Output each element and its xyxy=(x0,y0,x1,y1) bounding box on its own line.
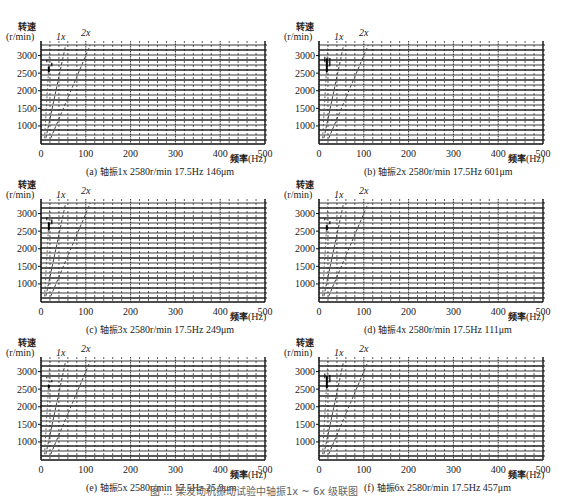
x-tick-label: 100 xyxy=(78,464,93,475)
y-tick-label: 1000 xyxy=(295,436,315,447)
y-axis-label-unit: (r/min) xyxy=(6,31,34,42)
y-tick-label: 2500 xyxy=(295,384,315,395)
order-label-2x: 2x xyxy=(359,343,368,354)
x-axis-label-unit: (Hz) xyxy=(526,469,544,480)
y-tick-label: 1000 xyxy=(295,120,315,131)
order-label-1x: 1x xyxy=(334,189,343,200)
y-tick-label: 2500 xyxy=(295,226,315,237)
waterfall-plot: 010020030040050010001500200025003000 xyxy=(278,158,558,318)
y-axis-label-unit: (r/min) xyxy=(6,189,34,200)
x-axis-label-zh: 频率 xyxy=(508,470,526,480)
x-axis-label-zh: 频率 xyxy=(230,470,248,480)
y-tick-label: 3000 xyxy=(17,50,37,61)
x-axis-label: 频率(Hz) xyxy=(508,468,544,481)
y-tick-label: 2000 xyxy=(295,243,315,254)
waterfall-plot: 010020030040050010001500200025003000 xyxy=(278,0,558,160)
y-tick-label: 1000 xyxy=(17,436,37,447)
figure-caption: 图 ... 某发动机振动试验中轴振1x ~ 6x 级联图 xyxy=(150,483,358,498)
panel-caption-prefix: (e) xyxy=(86,482,100,493)
y-tick-label: 1500 xyxy=(17,103,37,114)
y-tick-label: 1000 xyxy=(17,278,37,289)
chart-panel-c: 010020030040050010001500200025003000转速(r… xyxy=(0,158,280,318)
y-axis-label-unit: (r/min) xyxy=(6,347,34,358)
panel-caption-zh: 轴振 xyxy=(100,483,118,493)
y-tick-label: 2500 xyxy=(295,68,315,79)
waterfall-plot: 010020030040050010001500200025003000 xyxy=(0,158,280,318)
y-tick-label: 3000 xyxy=(295,208,315,219)
order-label-2x: 2x xyxy=(359,185,368,196)
order-label-2x: 2x xyxy=(359,27,368,38)
order-label-2x: 2x xyxy=(81,185,90,196)
y-tick-label: 3000 xyxy=(17,208,37,219)
y-tick-label: 1000 xyxy=(17,120,37,131)
order-label-1x: 1x xyxy=(334,347,343,358)
order-label-1x: 1x xyxy=(334,31,343,42)
x-tick-label: 400 xyxy=(213,464,228,475)
y-tick-label: 1500 xyxy=(17,419,37,430)
x-tick-label: 0 xyxy=(39,464,44,475)
waterfall-plot: 010020030040050010001500200025003000 xyxy=(0,0,280,160)
x-tick-label: 100 xyxy=(356,464,371,475)
y-tick-label: 3000 xyxy=(295,50,315,61)
y-tick-label: 2000 xyxy=(295,401,315,412)
waterfall-plot: 010020030040050010001500200025003000 xyxy=(278,316,558,476)
order-label-1x: 1x xyxy=(56,31,65,42)
order-label-2x: 2x xyxy=(81,27,90,38)
y-tick-label: 2500 xyxy=(17,68,37,79)
y-tick-label: 2000 xyxy=(17,243,37,254)
panel-caption: (f) 轴振6x 2580r/min 17.5Hz 457μm xyxy=(364,481,511,494)
y-tick-label: 3000 xyxy=(295,366,315,377)
y-tick-label: 2500 xyxy=(17,226,37,237)
y-tick-label: 2000 xyxy=(295,85,315,96)
y-axis-label-unit: (r/min) xyxy=(284,31,312,42)
order-label-1x: 1x xyxy=(56,347,65,358)
x-axis-label-unit: (Hz) xyxy=(248,469,266,480)
x-tick-label: 0 xyxy=(317,464,322,475)
y-axis-label-unit: (r/min) xyxy=(284,347,312,358)
y-tick-label: 1500 xyxy=(17,261,37,272)
y-tick-label: 1500 xyxy=(295,419,315,430)
y-tick-label: 1000 xyxy=(295,278,315,289)
panel-caption-rest: 6x 2580r/min 17.5Hz 457μm xyxy=(395,482,511,493)
panel-caption-zh: 轴振 xyxy=(377,483,395,493)
chart-panel-a: 010020030040050010001500200025003000转速(r… xyxy=(0,0,280,160)
y-tick-label: 3000 xyxy=(17,366,37,377)
order-label-2x: 2x xyxy=(81,343,90,354)
waterfall-plot: 010020030040050010001500200025003000 xyxy=(0,316,280,476)
chart-panel-f: 010020030040050010001500200025003000转速(r… xyxy=(278,316,558,476)
x-tick-label: 300 xyxy=(168,464,183,475)
x-tick-label: 200 xyxy=(123,464,138,475)
chart-panel-d: 010020030040050010001500200025003000转速(r… xyxy=(278,158,558,318)
chart-panel-b: 010020030040050010001500200025003000转速(r… xyxy=(278,0,558,160)
x-tick-label: 400 xyxy=(491,464,506,475)
y-tick-label: 2000 xyxy=(17,401,37,412)
order-label-1x: 1x xyxy=(56,189,65,200)
x-tick-label: 300 xyxy=(446,464,461,475)
y-axis-label-unit: (r/min) xyxy=(284,189,312,200)
x-tick-label: 200 xyxy=(401,464,416,475)
y-tick-label: 2000 xyxy=(17,85,37,96)
chart-panel-e: 010020030040050010001500200025003000转速(r… xyxy=(0,316,280,476)
y-tick-label: 1500 xyxy=(295,261,315,272)
y-tick-label: 2500 xyxy=(17,384,37,395)
x-axis-label: 频率(Hz) xyxy=(230,468,266,481)
panel-caption-prefix: (f) xyxy=(364,482,377,493)
y-tick-label: 1500 xyxy=(295,103,315,114)
